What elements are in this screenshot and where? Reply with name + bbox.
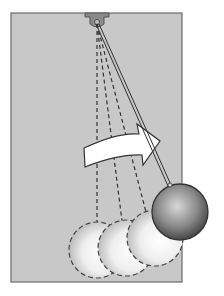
pendulum-bob [152, 184, 208, 240]
pendulum-illustration [0, 0, 224, 296]
